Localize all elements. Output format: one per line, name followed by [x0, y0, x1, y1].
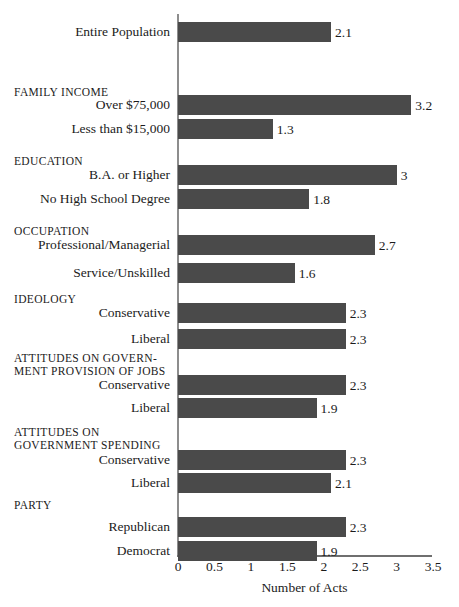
bar	[178, 189, 309, 209]
x-tick-label: 2.5	[352, 558, 369, 575]
bar	[178, 375, 346, 395]
bar-value-label: 2.3	[346, 375, 367, 395]
bar-row: Liberal1.9	[0, 398, 459, 418]
bar-row: Liberal2.3	[0, 329, 459, 349]
bar	[178, 517, 346, 537]
bar-row: Conservative2.3	[0, 375, 459, 395]
bar-value-label: 3.2	[411, 95, 432, 115]
bar-row-label: Republican	[0, 517, 170, 537]
bar-row: Conservative2.3	[0, 450, 459, 470]
x-tick-label: 3.5	[425, 558, 442, 575]
bar-row-label: Service/Unskilled	[0, 263, 170, 283]
bar-value-label: 2.1	[331, 473, 352, 493]
bar-row: B.A. or Higher3	[0, 165, 459, 185]
bar-value-label: 2.3	[346, 329, 367, 349]
bar-row: Democrat1.9	[0, 541, 459, 561]
bar-row: Service/Unskilled1.6	[0, 263, 459, 283]
bar-value-label: 2.3	[346, 517, 367, 537]
x-tick-label: 0.5	[206, 558, 223, 575]
bar-row-label: Conservative	[0, 303, 170, 323]
bar-row: Professional/Managerial2.7	[0, 235, 459, 255]
bar	[178, 303, 346, 323]
bar-row: No High School Degree1.8	[0, 189, 459, 209]
group-header: ATTITUDES ON	[14, 426, 100, 440]
bar-row: Over $75,0003.2	[0, 95, 459, 115]
bar-row: Liberal2.1	[0, 473, 459, 493]
bar-chart-figure: FAMILY INCOMEEDUCATIONOCCUPATIONIDEOLOGY…	[0, 0, 459, 607]
plot-area: FAMILY INCOMEEDUCATIONOCCUPATIONIDEOLOGY…	[0, 0, 459, 607]
bar-row-label: Liberal	[0, 329, 170, 349]
bar	[178, 22, 331, 42]
bar-row-label: No High School Degree	[0, 189, 170, 209]
bar	[178, 95, 411, 115]
group-header: PARTY	[14, 499, 52, 513]
bar-row-label: Democrat	[0, 541, 170, 561]
bar	[178, 119, 273, 139]
bar-row: Conservative2.3	[0, 303, 459, 323]
bar	[178, 165, 397, 185]
bar-row: Republican2.3	[0, 517, 459, 537]
group-header: ATTITUDES ON GOVERN-	[14, 352, 157, 366]
bar	[178, 398, 317, 418]
x-tick-label: 1.5	[279, 558, 296, 575]
bar-value-label: 1.6	[295, 263, 316, 283]
bar-value-label: 3	[397, 165, 408, 185]
bar	[178, 329, 346, 349]
bar	[178, 263, 295, 283]
bar-row-label: Entire Population	[0, 22, 170, 42]
bar-row-label: B.A. or Higher	[0, 165, 170, 185]
x-tick-label: 1	[248, 558, 255, 575]
bar	[178, 235, 375, 255]
x-tick-label: 0	[175, 558, 182, 575]
bar-row-label: Less than $15,000	[0, 119, 170, 139]
x-axis-title: Number of Acts	[177, 580, 432, 596]
bar-row-label: Liberal	[0, 473, 170, 493]
bar-value-label: 2.1	[331, 22, 352, 42]
bar-value-label: 1.3	[273, 119, 294, 139]
bar-row-label: Over $75,000	[0, 95, 170, 115]
bar-value-label: 2.7	[375, 235, 396, 255]
x-tick-label: 2	[320, 558, 327, 575]
bar-row-label: Conservative	[0, 450, 170, 470]
bar-row: Less than $15,0001.3	[0, 119, 459, 139]
bar-value-label: 2.3	[346, 450, 367, 470]
bar-value-label: 1.9	[317, 398, 338, 418]
bar-row-label: Conservative	[0, 375, 170, 395]
bar-row-label: Liberal	[0, 398, 170, 418]
bar-row-label: Professional/Managerial	[0, 235, 170, 255]
bar	[178, 473, 331, 493]
x-tick-label: 3	[393, 558, 400, 575]
bar-value-label: 1.8	[309, 189, 330, 209]
bar-row: Entire Population2.1	[0, 22, 459, 42]
bar-value-label: 2.3	[346, 303, 367, 323]
bar	[178, 450, 346, 470]
